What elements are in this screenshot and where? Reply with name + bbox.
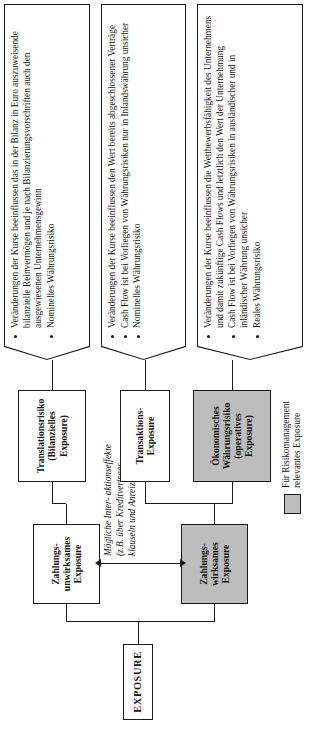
oekonomisches-line-2: Währungsrisiko (221, 393, 232, 479)
list-item: Veränderungen der Kurse beeinflussen die… (203, 13, 226, 328)
oekonomisches-waehrungsrisiko-box: Ökonomisches Währungsrisiko (operatives … (193, 390, 271, 482)
exposure-diagram-canvas: EXPOSURE Zahlungs- unwirksames Exposure … (0, 0, 316, 738)
oekonomisches-line-1: Ökonomisches (210, 393, 221, 479)
transaktions-line-1: Transaktions- (134, 393, 145, 479)
list-item: Veränderungen der Kurse beeinflussen das… (10, 13, 45, 328)
oekonomisches-line-4: Exposure) (243, 393, 254, 479)
translationsrisiko-line-3: Exposure) (58, 393, 69, 479)
translationsrisiko-line-1: Translationsrisiko (35, 393, 46, 479)
transaktions-callout-body: Veränderungen der Kurse beeinflussen den… (102, 5, 185, 359)
legend-label-line-1: Für Risikomanagement (281, 360, 292, 488)
translationsrisiko-callout-body: Veränderungen der Kurse beeinflussen das… (5, 5, 89, 359)
interaction-note-line-4: klauseln und (127, 509, 137, 556)
legend-color-swatch (284, 494, 301, 514)
connector-to-translationsrisiko (52, 482, 53, 504)
legend-label-line-2: relevantes Exposure (292, 360, 303, 488)
translationsrisiko-callout: Veränderungen der Kurse beeinflussen das… (4, 4, 90, 360)
connector-transaktions-callout (145, 360, 146, 390)
zahlungsunwirksames-line-1: Zahlungs- (50, 527, 61, 601)
connector-to-zahlungs-unwirksam (66, 604, 67, 622)
translationsrisiko-box: Translationsrisiko (Bilanzielles Exposur… (18, 390, 86, 482)
connector-translationsrisiko-callout (52, 360, 53, 390)
transaktions-exposure-box: Transaktions- Exposure (120, 390, 170, 482)
zahlungswirksames-line-2: wirksames (209, 527, 220, 601)
interaction-double-arrow-icon (100, 563, 181, 564)
connector-oekonomisches-callout (232, 360, 233, 390)
connector-wirksam-split (145, 503, 232, 504)
connector-to-transaktions (145, 482, 146, 504)
exposure-root-box: EXPOSURE (123, 644, 153, 720)
transaktions-bullet-list: Veränderungen der Kurse beeinflussen den… (107, 13, 144, 339)
connector-wirksam-out (214, 504, 215, 524)
translationsrisiko-line-2: (Bilanzielles (46, 393, 57, 479)
zahlungsunwirksames-line-2: unwirksames (61, 527, 72, 601)
oekonomisches-bullet-list: Veränderungen der Kurse beeinflussen die… (203, 13, 264, 339)
exposure-root-label: EXPOSURE (132, 651, 144, 712)
connector-to-zahlungs-wirksam (214, 604, 215, 622)
zahlungswirksames-line-1: Zahlungs- (198, 527, 209, 601)
connector-unwirksam-riser (52, 503, 66, 504)
connector-to-oekonomisches (232, 482, 233, 504)
connector-exposure-split (66, 621, 215, 622)
transaktions-callout: Veränderungen der Kurse beeinflussen den… (101, 4, 186, 360)
list-item: Veränderungen der Kurse beeinflussen den… (107, 13, 119, 328)
zahlungsunwirksames-line-3: Exposure (72, 527, 83, 601)
connector-unwirksam-out (66, 504, 67, 524)
oekonomisches-callout-body: Veränderungen der Kurse beeinflussen die… (198, 5, 302, 359)
list-item: Reales Währungsrisiko (252, 13, 264, 328)
interaction-note-line-1: Mögliche Inter- (103, 498, 113, 556)
legend-label: Für Risikomanagement relevantes Exposure (281, 360, 303, 488)
connector-exposure-trunk (138, 622, 139, 644)
transaktions-line-2: Exposure (145, 393, 156, 479)
oekonomisches-line-3: (operatives (232, 393, 243, 479)
oekonomisches-callout: Veränderungen der Kurse beeinflussen die… (197, 4, 303, 360)
diagram-rotation-frame: EXPOSURE Zahlungs- unwirksames Exposure … (0, 0, 316, 738)
list-item: Nominelles Währungsrisiko (132, 13, 144, 328)
zahlungswirksames-line-3: Exposure (220, 527, 231, 601)
list-item: Nominelles Währungsrisiko (46, 13, 58, 328)
translationsrisiko-bullet-list: Veränderungen der Kurse beeinflussen das… (10, 13, 58, 339)
zahlungsunwirksames-exposure-box: Zahlungs- unwirksames Exposure (33, 524, 100, 604)
list-item: Cash Flow ist bei Vorliegen von Währungs… (120, 13, 132, 328)
zahlungswirksames-exposure-box: Zahlungs- wirksames Exposure (181, 524, 248, 604)
list-item: Cash Flow ist bei Vorliegen von Währungs… (227, 13, 250, 328)
legend: Für Risikomanagement relevantes Exposure (281, 360, 303, 514)
